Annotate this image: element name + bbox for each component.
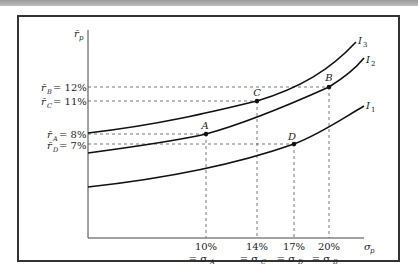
svg-text:3: 3 <box>363 41 367 49</box>
curve-label-i3: I 3 <box>357 35 367 49</box>
svg-text:C: C <box>261 258 266 266</box>
point-c <box>255 99 260 104</box>
x-tick-17: 17% = σ D <box>277 241 305 266</box>
svg-text:p: p <box>79 34 84 42</box>
svg-text:p: p <box>370 247 375 255</box>
y-tick-11: r̄ C = 11% <box>41 96 87 110</box>
svg-text:A: A <box>52 135 58 143</box>
svg-text:= σ: = σ <box>240 253 259 264</box>
point-label-c: C <box>253 87 261 98</box>
svg-text:= 7%: = 7% <box>59 140 86 151</box>
point-label-b: B <box>324 72 332 83</box>
svg-text:2: 2 <box>371 60 375 68</box>
curve-label-i2: I 2 <box>365 54 375 68</box>
svg-text:= 12%: = 12% <box>53 82 87 93</box>
x-tick-20: 20% = σ B <box>312 241 340 266</box>
svg-text:B: B <box>332 258 338 266</box>
point-label-a: A <box>200 120 208 131</box>
point-b <box>327 85 332 90</box>
x-tick-14: 14% = σ C <box>240 241 268 266</box>
y-tick-12: r̄ B = 12% <box>41 82 87 96</box>
svg-text:1: 1 <box>371 106 375 114</box>
curve-i3 <box>88 42 356 133</box>
point-d <box>292 142 297 147</box>
svg-text:B: B <box>46 88 52 96</box>
svg-text:14%: 14% <box>246 241 268 252</box>
indifference-curve-chart: A C B D I 3 I 2 I 1 r̄ p r̄ B = 12% r̄ C… <box>0 0 418 279</box>
curve-label-i1: I 1 <box>365 100 375 114</box>
y-axis-title: r̄ p <box>74 28 84 42</box>
point-label-d: D <box>287 131 296 142</box>
svg-text:= σ: = σ <box>312 253 331 264</box>
svg-text:A: A <box>209 258 215 266</box>
svg-text:10%: 10% <box>195 241 217 252</box>
svg-text:= 8%: = 8% <box>59 129 86 140</box>
curve-i2 <box>88 58 364 153</box>
svg-text:D: D <box>52 146 59 154</box>
x-tick-10: 10% = σ A <box>189 241 217 266</box>
svg-text:= σ: = σ <box>277 253 296 264</box>
x-axis-title: σ p <box>364 241 375 255</box>
svg-text:17%: 17% <box>283 241 305 252</box>
svg-text:20%: 20% <box>318 241 340 252</box>
guide-lines <box>88 87 329 238</box>
svg-text:= 11%: = 11% <box>53 96 87 107</box>
point-a <box>204 132 209 137</box>
svg-text:D: D <box>297 258 304 266</box>
svg-text:= σ: = σ <box>189 253 208 264</box>
svg-text:C: C <box>47 102 52 110</box>
